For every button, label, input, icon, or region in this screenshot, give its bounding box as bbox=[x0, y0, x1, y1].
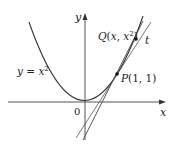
x-axis-arrow-icon bbox=[159, 100, 166, 105]
tangent-secant-diagram: y x 0 y = x2 P(1, 1) Q(x, x2) t bbox=[0, 0, 182, 148]
curve-label: y = x2 bbox=[16, 65, 49, 77]
y-axis-arrow-icon bbox=[83, 13, 88, 20]
y-axis-label: y bbox=[74, 11, 82, 24]
origin-label: 0 bbox=[74, 106, 80, 117]
point-p-label: P(1, 1) bbox=[120, 72, 156, 84]
parabola-curve bbox=[29, 16, 143, 101]
x-axis-label: x bbox=[160, 106, 167, 119]
point-q-label: Q(x, x2) bbox=[98, 30, 138, 43]
tangent-label: t bbox=[145, 34, 150, 46]
point-p-dot bbox=[115, 72, 119, 76]
